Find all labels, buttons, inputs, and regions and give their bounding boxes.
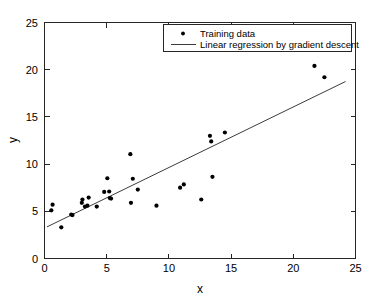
data-point (95, 204, 99, 208)
x-tick-label: 20 (287, 262, 299, 274)
y-tick-label: 25 (26, 17, 38, 29)
data-point (85, 204, 89, 208)
data-point (178, 186, 182, 190)
chart-figure: 0 5 10 15 20 25 0 5 10 15 20 25 x y Trai… (0, 0, 370, 306)
data-point (109, 196, 113, 200)
x-tick-labels: 0 5 10 15 20 25 (41, 262, 361, 274)
x-axis-title: x (197, 282, 203, 296)
data-point (50, 203, 54, 207)
y-tick-label: 20 (26, 64, 38, 76)
x-tick-label: 0 (41, 262, 47, 274)
data-point (208, 134, 212, 138)
data-point (129, 201, 133, 205)
x-tick-label: 25 (349, 262, 361, 274)
data-point (102, 190, 106, 194)
y-tick-label: 0 (32, 253, 38, 265)
training-data-points (49, 64, 326, 230)
data-point (87, 196, 91, 200)
data-point (223, 130, 227, 134)
y-tick-labels: 0 5 10 15 20 25 (26, 17, 38, 265)
x-tick-label: 15 (225, 262, 237, 274)
data-point (49, 208, 53, 212)
y-axis-title: y (6, 137, 20, 143)
data-point (70, 213, 74, 217)
y-axis-ticks (45, 23, 356, 259)
data-point (131, 177, 135, 181)
regression-line (47, 82, 346, 227)
x-tick-label: 5 (104, 262, 110, 274)
x-tick-label: 10 (163, 262, 175, 274)
x-axis-ticks (45, 23, 356, 259)
data-point (136, 187, 140, 191)
data-point (182, 182, 186, 186)
data-point (59, 225, 63, 229)
data-point (199, 197, 203, 201)
plot-frame (45, 23, 356, 259)
chart-legend[interactable]: Training data Linear regression by gradi… (164, 25, 360, 52)
y-tick-label: 10 (26, 158, 38, 170)
data-point (209, 139, 213, 143)
data-point (80, 197, 84, 201)
data-point (128, 152, 132, 156)
y-tick-label: 5 (32, 205, 38, 217)
legend-label-regression-line: Linear regression by gradient descent (200, 39, 359, 50)
legend-label-training-data: Training data (200, 28, 256, 39)
data-point (210, 175, 214, 179)
data-point (312, 64, 316, 68)
scatter-plot: 0 5 10 15 20 25 0 5 10 15 20 25 x y Trai… (0, 0, 370, 306)
data-point (105, 176, 109, 180)
data-point (322, 75, 326, 79)
legend-marker-training-data (181, 32, 185, 36)
y-tick-label: 15 (26, 111, 38, 123)
data-point (107, 189, 111, 193)
data-point (154, 204, 158, 208)
